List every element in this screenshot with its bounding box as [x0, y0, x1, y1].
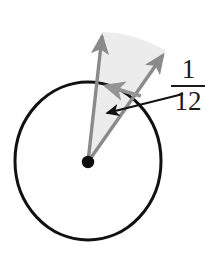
center-dot [82, 156, 94, 168]
fraction-denominator: 12 [168, 88, 208, 115]
fraction-label: 1 12 [168, 56, 208, 115]
circle-sector-diagram [0, 0, 209, 254]
figure-canvas: 1 12 [0, 0, 209, 254]
fraction-numerator: 1 [168, 56, 208, 83]
